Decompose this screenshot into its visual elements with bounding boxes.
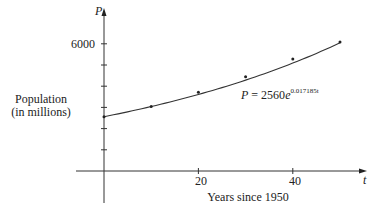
data-point bbox=[150, 105, 153, 108]
y-axis-label-line2: (in millions) bbox=[11, 105, 71, 119]
data-point bbox=[103, 115, 106, 118]
equation-exponent: 0.017185t bbox=[290, 87, 318, 95]
model-curve-path bbox=[104, 43, 340, 117]
y-axis-symbol: P bbox=[94, 4, 103, 18]
y-tick-label-6000: 6000 bbox=[71, 37, 95, 51]
x-axis-symbol: t bbox=[363, 173, 367, 187]
data-point bbox=[244, 75, 247, 78]
labels: P t 6000 20 40 Years since 1950 Populati… bbox=[11, 4, 367, 204]
data-points bbox=[103, 41, 342, 119]
x-axis-label: Years since 1950 bbox=[207, 190, 288, 204]
data-point bbox=[291, 58, 294, 61]
data-point bbox=[339, 41, 342, 44]
x-tick-label-40: 40 bbox=[289, 174, 301, 188]
model-curve bbox=[104, 43, 340, 117]
axes bbox=[76, 8, 367, 203]
equation-annotation: P = 2560e0.017185t bbox=[240, 87, 319, 102]
data-point bbox=[197, 91, 200, 94]
x-tick-label-20: 20 bbox=[195, 174, 207, 188]
population-chart: P t 6000 20 40 Years since 1950 Populati… bbox=[0, 0, 381, 210]
y-axis-label-line1: Population bbox=[15, 92, 67, 106]
